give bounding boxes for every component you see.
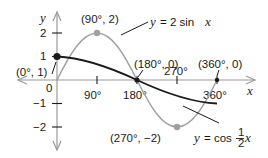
svg-text:= 2 sin: = 2 sin (160, 16, 194, 28)
svg-text:x: x (204, 14, 211, 29)
x-axis-label: x (246, 83, 253, 98)
point-intersection-180 (134, 77, 139, 82)
point-y-intercept (53, 53, 60, 60)
svg-text:= cos: = cos (204, 132, 232, 144)
y-tick-2: 2 (40, 27, 46, 39)
y-tick-neg2: −2 (33, 121, 46, 133)
svg-text:y: y (192, 130, 200, 145)
annotation-360: (360°, 0) (198, 58, 242, 70)
y-axis-label: y (38, 10, 46, 25)
annotation-180: (180°, 0) (134, 58, 178, 70)
annotation-max: (90°, 2) (81, 13, 119, 25)
pointer-lines (52, 22, 219, 123)
point-max (94, 30, 100, 36)
tick-labels: 90° 180° 270° 360° 2 1 −1 −2 0 y x (33, 10, 253, 133)
point-min (174, 124, 180, 130)
x-tick-90: 90° (84, 89, 101, 101)
origin-label: 0 (46, 82, 52, 94)
annotation-y-intercept: (0°, 1) (16, 66, 48, 78)
annotation-min: (270°, −2) (110, 132, 161, 144)
point-360 (215, 78, 219, 82)
y-tick-1: 1 (40, 50, 46, 62)
svg-text:x: x (244, 130, 251, 145)
svg-text:2: 2 (238, 137, 244, 149)
svg-text:y: y (148, 14, 156, 29)
cosine-label: y = cos 1 2 x (192, 126, 251, 149)
graph-figure: 90° 180° 270° 360° 2 1 −1 −2 0 y x (90°,… (0, 0, 268, 158)
y-tick-neg1: −1 (33, 97, 46, 109)
sine-label: y = 2 sin x (148, 14, 211, 29)
